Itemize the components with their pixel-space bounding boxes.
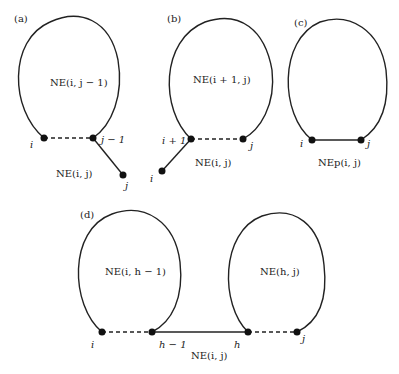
panel-b-node-i-label: i [150, 173, 153, 184]
panel-c-tag: (c) [294, 17, 308, 28]
rna-decomposition-diagram: (a) NE(i, j − 1) i j − 1 j NE(i, j) (b) … [0, 0, 399, 374]
panel-a-node-i [41, 135, 48, 142]
panel-a-node-j-1-label: j − 1 [99, 134, 125, 145]
panel-a-node-j-label: j [123, 180, 128, 191]
panel-b-node-j [240, 136, 247, 143]
panel-a-tag: (a) [14, 13, 28, 24]
panel-d-outer-label: NE(i, j) [191, 350, 228, 361]
panel-d-node-j-label: j [300, 333, 305, 344]
panel-b-tag: (b) [167, 13, 181, 24]
panel-c-node-i-label: i [300, 138, 303, 149]
panel-a-node-j [120, 172, 127, 179]
panel-a: (a) NE(i, j − 1) i j − 1 j NE(i, j) [14, 13, 128, 191]
panel-a-inner-label: NE(i, j − 1) [50, 77, 108, 88]
panel-d-node-i [99, 329, 106, 336]
panel-d-node-h-label: h [234, 339, 240, 350]
panel-d-node-h-1 [149, 329, 156, 336]
panel-c-node-i [309, 137, 316, 144]
panel-a-node-j-1 [90, 135, 97, 142]
panel-b-node-j-label: j [248, 140, 253, 151]
panel-c-node-j [358, 137, 365, 144]
panel-d: (d) NE(i, h − 1) NE(h, j) i h − 1 h j NE… [78, 209, 324, 361]
panel-d-tag: (d) [80, 209, 94, 220]
panel-d-node-h [245, 329, 252, 336]
panel-d-right-inner-label: NE(h, j) [260, 266, 300, 277]
panel-a-outer-label: NE(i, j) [56, 168, 93, 179]
panel-c-outer-label: NEp(i, j) [318, 157, 361, 168]
panel-b: (b) NE(i + 1, j) i + 1 j i NE(i, j) [150, 13, 273, 184]
panel-c-node-j-label: j [365, 138, 370, 149]
panel-b-node-i+1-label: i + 1 [162, 135, 186, 146]
panel-a-node-i-label: i [30, 139, 33, 150]
panel-d-node-j [294, 329, 301, 336]
panel-b-node-i [159, 168, 166, 175]
panel-d-node-h-1-label: h − 1 [159, 339, 187, 350]
panel-b-inner-label: NE(i + 1, j) [193, 74, 251, 85]
panel-b-outer-label: NE(i, j) [195, 157, 232, 168]
panel-c: (c) i j NEp(i, j) [288, 17, 387, 168]
panel-c-loop [288, 19, 387, 140]
panel-d-node-i-label: i [91, 339, 94, 350]
panel-b-node-i+1 [188, 136, 195, 143]
panel-d-left-inner-label: NE(i, h − 1) [105, 266, 166, 277]
